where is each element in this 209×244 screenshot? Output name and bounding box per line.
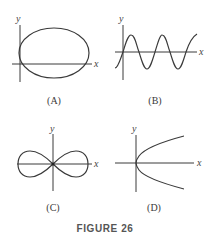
panel-a-y-label: y [15, 13, 21, 24]
panel-b-label: (B) [148, 95, 161, 107]
panel-c-origin-dot [52, 163, 55, 166]
panel-c-y-label: y [49, 123, 55, 134]
figure-26: x y (A) x y (B) x y (C) x y (D) FIGURE 2… [0, 0, 209, 244]
panel-a-x-label: x [93, 58, 99, 69]
panel-c-x-label: x [93, 158, 99, 169]
panel-d-y-label: y [131, 123, 137, 134]
panel-a-label: (A) [47, 95, 61, 107]
panel-c-label: (C) [46, 202, 59, 214]
panel-b-x-label: x [198, 46, 204, 57]
panel-c: x y (C) [17, 123, 99, 214]
panel-b: x y (B) [115, 13, 204, 107]
panel-d: x y (D) [115, 123, 202, 214]
panel-d-label: (D) [147, 202, 161, 214]
panel-a: x y (A) [12, 13, 99, 107]
panel-a-ellipse-curve [19, 28, 89, 78]
panel-d-x-label: x [196, 157, 202, 168]
figure-caption: FIGURE 26 [76, 223, 133, 234]
panel-b-y-label: y [118, 13, 124, 24]
